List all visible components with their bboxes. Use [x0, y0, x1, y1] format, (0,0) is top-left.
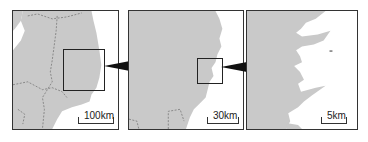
scale-label-right: 5km	[327, 111, 346, 121]
inset-box-middle	[197, 58, 223, 84]
map-panel-left: 100km	[12, 10, 119, 130]
scale-label-left: 100km	[84, 111, 114, 121]
zoom-pointer-left	[104, 60, 130, 74]
map-panel-right: 5km	[246, 10, 358, 130]
scale-label-middle: 30km	[213, 111, 237, 121]
zoom-pointer-right	[221, 62, 247, 74]
inset-box-left	[63, 49, 105, 91]
